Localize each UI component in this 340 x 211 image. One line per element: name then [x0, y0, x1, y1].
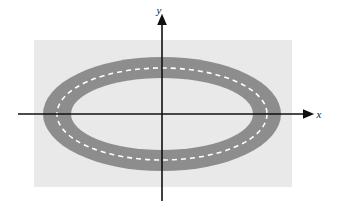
y-axis-label: y — [156, 4, 162, 16]
elliptical-road-band — [0, 0, 340, 211]
figure-canvas: x y — [0, 0, 340, 211]
racetrack-diagram: x y — [0, 0, 340, 211]
x-axis-label: x — [316, 108, 322, 120]
